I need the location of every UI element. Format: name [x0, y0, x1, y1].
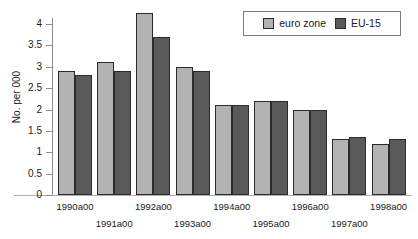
- bar-eu-15-1995a00: [271, 101, 288, 195]
- legend-label-euro-zone: euro zone: [279, 18, 326, 29]
- legend-entry-eu-15: EU-15: [335, 18, 381, 29]
- bar-eu-15-1990a00: [75, 75, 92, 195]
- bar-euro-zone-1991a00: [97, 62, 114, 195]
- bar-euro-zone-1994a00: [215, 105, 232, 195]
- x-axis-label-1998a00: 1998a00: [354, 202, 418, 212]
- bar-eu-15-1998a00: [389, 139, 406, 195]
- bar-eu-15-1993a00: [193, 71, 210, 195]
- bar-eu-15-1994a00: [232, 105, 249, 195]
- bar-euro-zone-1993a00: [176, 67, 193, 195]
- legend-swatch-euro-zone: [263, 18, 274, 29]
- bar-euro-zone-1995a00: [254, 101, 271, 195]
- legend-entry-euro-zone: euro zone: [263, 18, 326, 29]
- legend-swatch-eu-15: [335, 18, 346, 29]
- bar-euro-zone-1990a00: [58, 71, 75, 195]
- bar-euro-zone-1998a00: [372, 144, 389, 195]
- x-axis-label-1993a00: 1993a00: [158, 219, 228, 229]
- bar-euro-zone-1997a00: [332, 139, 349, 195]
- bar-eu-15-1996a00: [310, 110, 327, 196]
- x-axis-label-1991a00: 1991a00: [79, 219, 149, 229]
- bar-euro-zone-1996a00: [293, 110, 310, 196]
- x-axis-label-1994a00: 1994a00: [197, 202, 267, 212]
- x-axis-label-1992a00: 1992a00: [118, 202, 188, 212]
- bar-eu-15-1997a00: [349, 137, 366, 195]
- x-axis-label-1995a00: 1995a00: [236, 219, 306, 229]
- x-axis-label-1990a00: 1990a00: [40, 202, 110, 212]
- bar-eu-15-1991a00: [114, 71, 131, 195]
- legend-label-eu-15: EU-15: [351, 18, 381, 29]
- chart-legend: euro zone EU-15: [243, 11, 401, 36]
- x-axis-label-1997a00: 1997a00: [314, 219, 384, 229]
- x-axis-label-1996a00: 1996a00: [275, 202, 345, 212]
- bar-eu-15-1992a00: [153, 37, 170, 195]
- bar-chart: No. per 000 00.511.522.533.54 1990a00199…: [0, 0, 418, 239]
- bar-euro-zone-1992a00: [136, 13, 153, 195]
